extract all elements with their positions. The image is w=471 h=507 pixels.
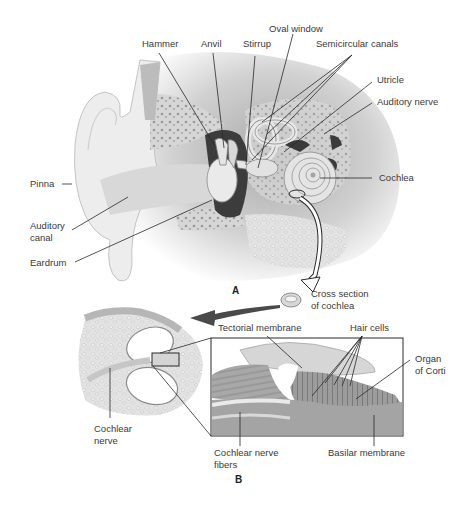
- label-auditory-canal-line1: Auditory: [30, 220, 65, 232]
- label-organ-of-corti-line1: Organ: [415, 353, 441, 365]
- label-hair-cells: Hair cells: [350, 322, 389, 334]
- label-cochlear-nerve-fibers-line2: fibers: [214, 459, 237, 471]
- ear-anatomy-diagram: Hammer Anvil Stirrup Oval window Semicir…: [0, 0, 471, 507]
- label-organ-of-corti-line2: of Corti: [415, 365, 446, 377]
- label-stirrup: Stirrup: [243, 38, 271, 50]
- label-pinna: Pinna: [30, 178, 54, 190]
- label-auditory-nerve: Auditory nerve: [377, 96, 438, 108]
- label-tectorial-membrane: Tectorial membrane: [218, 322, 301, 334]
- label-hammer: Hammer: [142, 38, 178, 50]
- label-basilar-membrane: Basilar membrane: [328, 447, 405, 459]
- label-cochlear-nerve-fibers-line1: Cochlear nerve: [214, 447, 278, 459]
- label-cochlea: Cochlea: [379, 172, 414, 184]
- panel-b-letter: B: [235, 474, 242, 485]
- label-cross-section-line1: Cross section: [311, 288, 369, 300]
- panel-a-letter: A: [232, 285, 239, 296]
- label-cochlear-nerve-line2: nerve: [94, 435, 118, 447]
- label-semicircular-canals: Semicircular canals: [316, 38, 398, 50]
- label-cochlear-nerve-line1: Cochlear: [94, 423, 132, 435]
- label-oval-window: Oval window: [269, 23, 323, 35]
- label-eardrum: Eardrum: [30, 257, 66, 269]
- label-cross-section-line2: of cochlea: [311, 300, 354, 312]
- label-utricle: Utricle: [377, 74, 404, 86]
- label-auditory-canal-line2: canal: [30, 232, 53, 244]
- label-anvil: Anvil: [201, 38, 222, 50]
